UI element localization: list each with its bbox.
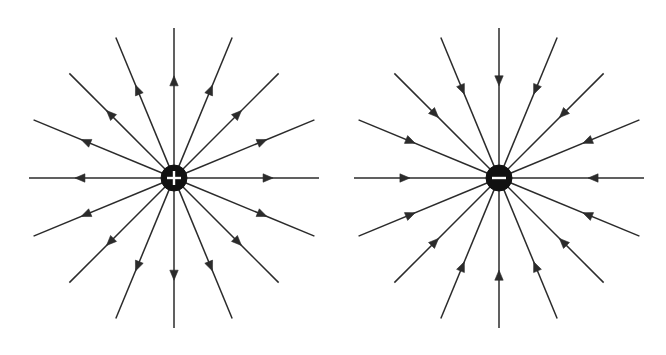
electric-field-figure <box>0 0 666 355</box>
field-line-canvas <box>0 0 666 355</box>
